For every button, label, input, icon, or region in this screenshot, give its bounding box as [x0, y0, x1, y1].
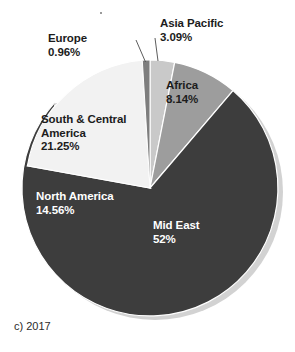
slice-label-europe: Europe 0.96% — [48, 32, 87, 59]
slice-label-asia-pacific-name: Asia Pacific — [160, 17, 223, 31]
slice-label-south-central-america-name-line2: America — [41, 127, 126, 141]
slice-label-asia-pacific: Asia Pacific 3.09% — [160, 17, 223, 44]
slice-label-south-central-america: South & Central America 21.25% — [41, 113, 126, 154]
leader-line-europe — [136, 40, 146, 62]
slice-label-mid-east-value: 52% — [153, 233, 200, 247]
figure-caption: c) 2017 — [14, 320, 51, 332]
slice-label-europe-name: Europe — [48, 32, 87, 46]
pie-chart-figure: Europe 0.96% Asia Pacific 3.09% Africa 8… — [0, 0, 295, 352]
slice-label-asia-pacific-value: 3.09% — [160, 31, 223, 45]
leader-line-asia-pacific — [155, 38, 158, 61]
slice-label-north-america-name: North America — [36, 190, 114, 204]
slice-label-south-central-america-value: 21.25% — [41, 140, 126, 154]
pie-chart-canvas — [0, 0, 295, 352]
slice-label-north-america-value: 14.56% — [36, 204, 114, 218]
slice-label-africa: Africa 8.14% — [166, 79, 198, 106]
slice-label-mid-east: Mid East 52% — [153, 219, 200, 246]
slice-label-south-central-america-name-line1: South & Central — [41, 113, 126, 127]
slice-label-africa-value: 8.14% — [166, 93, 198, 107]
slice-label-mid-east-name: Mid East — [153, 219, 200, 233]
scan-artifact-speck — [100, 12, 102, 14]
slice-label-north-america: North America 14.56% — [36, 190, 114, 217]
slice-label-africa-name: Africa — [166, 79, 198, 93]
slice-label-europe-value: 0.96% — [48, 46, 87, 60]
